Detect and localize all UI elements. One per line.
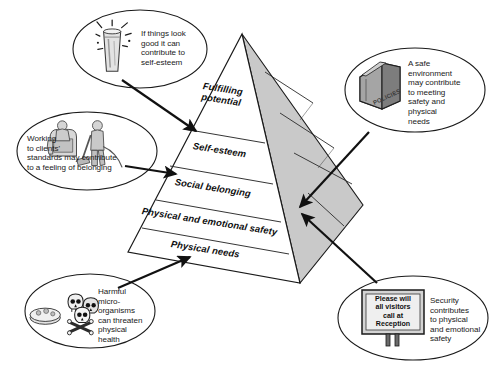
- callout-text-self-esteem: If things look good it can contribute to…: [141, 29, 207, 67]
- callout-text-belonging: Working to clients' standards may contri…: [27, 134, 151, 172]
- callout-text-physical-needs: Harmful micro- organisms can threaten ph…: [98, 287, 156, 345]
- diagram-canvas: Fulfilling potential Self-esteem Social …: [0, 0, 489, 368]
- reception-sign-label: Please will all visitors call at Recepti…: [366, 295, 420, 328]
- callout-text-security: Security contributes to physical and emo…: [430, 296, 489, 344]
- callout-text-safe-environment: A safe environment may contribute to mee…: [408, 59, 482, 126]
- connector-physical-needs: [118, 257, 190, 288]
